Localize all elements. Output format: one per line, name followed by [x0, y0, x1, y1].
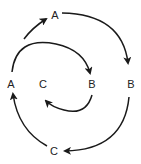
edge-a-left-to-b-inner [12, 43, 90, 73]
cycle-diagram [0, 0, 141, 164]
node-c-bottom: C [50, 146, 58, 157]
edge-b-inner-to-c-inner [46, 95, 92, 111]
edge-a-left-to-a-top [24, 19, 46, 39]
edge-b-right-to-c-bottom [65, 97, 129, 151]
edge-a-top-to-b-right [62, 13, 128, 63]
node-a-top: A [51, 10, 58, 21]
node-a-left: A [7, 79, 14, 90]
node-b-inner: B [88, 79, 95, 90]
edge-c-bottom-to-a-left [13, 94, 47, 146]
node-b-right: B [127, 79, 134, 90]
node-c-inner: C [39, 79, 47, 90]
